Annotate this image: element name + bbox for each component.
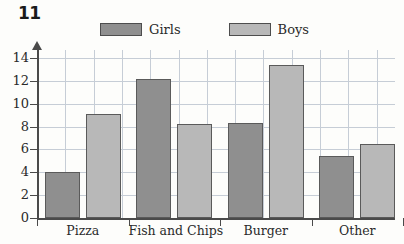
gridline-horizontal [37, 104, 395, 105]
y-axis-tick [30, 104, 39, 105]
gridline-horizontal [37, 81, 395, 82]
x-axis-category-label: Fish and Chips [129, 223, 221, 238]
y-axis-tick-label: 2 [3, 187, 29, 202]
bar-girls-other [319, 156, 354, 218]
y-axis-tick [30, 172, 39, 173]
x-axis-category-label: Burger [220, 223, 312, 238]
bar-boys-fish-and-chips [177, 124, 212, 218]
legend-item-girls: Girls [100, 22, 181, 37]
y-axis-tick-label: 14 [3, 50, 29, 65]
x-axis-tick [220, 218, 221, 226]
y-axis-tick-label: 0 [3, 210, 29, 225]
y-axis-tick [30, 127, 39, 128]
y-axis-tick-label: 10 [3, 96, 29, 111]
legend-label-girls: Girls [149, 22, 181, 37]
y-axis-tick [30, 195, 39, 196]
bar-boys-other [360, 144, 395, 218]
legend-swatch-boys [229, 23, 271, 36]
y-axis-tick-label: 12 [3, 73, 29, 88]
legend-item-boys: Boys [229, 22, 309, 37]
bar-girls-pizza [45, 172, 80, 218]
legend-swatch-girls [100, 23, 142, 36]
bar-girls-fish-and-chips [136, 79, 171, 218]
y-axis-labels: 02468101214 [0, 0, 29, 244]
bar-girls-burger [228, 123, 263, 218]
bar-boys-pizza [86, 114, 121, 218]
gridline-vertical [122, 50, 123, 218]
y-axis-tick [30, 149, 39, 150]
legend-label-boys: Boys [278, 22, 309, 37]
x-axis-category-label: Pizza [37, 223, 129, 238]
chart-legend: Girls Boys [100, 22, 309, 37]
x-axis-tick [37, 218, 38, 226]
x-axis-tick [129, 218, 130, 226]
x-axis-tick [312, 218, 313, 226]
y-axis-tick-label: 8 [3, 119, 29, 134]
x-axis-line [37, 218, 395, 220]
x-axis-category-label: Other [312, 223, 404, 238]
gridline-horizontal [37, 58, 395, 59]
y-axis-tick-label: 4 [3, 164, 29, 179]
gridline-vertical [263, 50, 264, 218]
plot-area [37, 50, 395, 218]
y-axis-tick [30, 81, 39, 82]
bar-boys-burger [269, 65, 304, 218]
y-axis-tick [30, 58, 39, 59]
y-axis-tick-label: 6 [3, 141, 29, 156]
